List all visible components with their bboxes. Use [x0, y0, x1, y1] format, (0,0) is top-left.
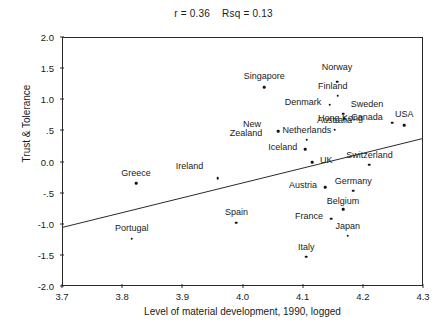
data-point-marker — [135, 182, 138, 185]
data-point-label: France — [295, 211, 323, 221]
data-point-label: Canada — [351, 112, 383, 122]
data-point-marker — [403, 124, 406, 127]
x-tick-label: 3.7 — [42, 291, 82, 302]
x-tick-mark — [423, 284, 424, 288]
y-tick-label: 2.0 — [14, 32, 54, 43]
x-tick-label: 4.2 — [343, 291, 383, 302]
data-point-label: Austria — [289, 180, 317, 190]
data-point-label: Italy — [298, 242, 315, 252]
scatter-plot-figure: r = 0.36 Rsq = 0.13 2.01.51.0.50.0-.5-1.… — [0, 0, 447, 331]
data-point-label: Denmark — [285, 97, 322, 107]
data-point-marker — [217, 177, 220, 180]
data-point-label: Netherlands — [283, 125, 332, 135]
data-point-label: Japan — [336, 221, 361, 231]
data-point-marker — [277, 130, 280, 133]
data-point-marker — [263, 86, 266, 89]
data-point-label: Finland — [318, 81, 348, 91]
x-tick-mark — [122, 284, 123, 288]
x-tick-label: 4.1 — [283, 291, 323, 302]
x-tick-label: 3.9 — [162, 291, 202, 302]
data-point-label: Zealand — [230, 128, 263, 138]
data-point-label: Spain — [225, 207, 248, 217]
y-tick-label: -2.0 — [14, 281, 54, 292]
x-axis-label: Level of material development, 1990, log… — [62, 306, 423, 317]
x-tick-mark — [182, 284, 183, 288]
data-point-label: Singapore — [244, 71, 285, 81]
x-tick-mark — [362, 284, 363, 288]
data-point-marker — [235, 221, 238, 224]
x-tick-label: 4.0 — [223, 291, 263, 302]
data-point-marker — [336, 94, 339, 97]
y-tick-label: -1.5 — [14, 249, 54, 260]
x-tick-mark — [242, 284, 243, 288]
data-point-marker — [330, 217, 333, 220]
plot-canvas — [62, 37, 423, 286]
y-tick-mark — [60, 99, 64, 100]
data-point-marker — [306, 138, 309, 141]
data-point-label: Germany — [335, 176, 372, 186]
y-tick-mark — [60, 161, 64, 162]
data-point-marker — [391, 122, 394, 125]
data-point-marker — [342, 208, 345, 211]
x-tick-label: 3.8 — [102, 291, 142, 302]
data-point-label: Greece — [121, 168, 151, 178]
data-point-marker — [346, 234, 349, 237]
y-tick-mark — [60, 223, 64, 224]
y-axis-label: Trust & Tolerance — [21, 54, 32, 194]
y-tick-mark — [60, 130, 64, 131]
y-tick-mark — [60, 192, 64, 193]
x-tick-mark — [302, 284, 303, 288]
data-point-label: Sweden — [351, 99, 384, 109]
data-point-marker — [311, 161, 314, 164]
data-point-marker — [333, 128, 336, 131]
x-tick-label: 4.3 — [403, 291, 443, 302]
data-point-marker — [324, 186, 327, 189]
y-tick-mark — [60, 68, 64, 69]
data-point-label: USA — [395, 109, 414, 119]
data-point-label: Switzerland — [346, 150, 393, 160]
x-tick-mark — [62, 284, 63, 288]
data-point-marker — [130, 237, 133, 240]
data-point-label: Portugal — [115, 223, 149, 233]
data-point-label: Australia — [317, 115, 352, 125]
y-tick-mark — [60, 37, 64, 38]
data-point-marker — [368, 163, 371, 166]
data-point-label: Iceland — [268, 142, 297, 152]
data-point-label: UK — [320, 155, 333, 165]
y-tick-label: -1.0 — [14, 218, 54, 229]
chart-title: r = 0.36 Rsq = 0.13 — [0, 8, 447, 19]
data-point-marker — [328, 104, 331, 107]
y-tick-mark — [60, 254, 64, 255]
data-point-label: Belgium — [327, 196, 360, 206]
data-point-label: Norway — [322, 62, 353, 72]
data-point-marker — [304, 148, 307, 151]
data-point-label: Ireland — [176, 161, 204, 171]
data-point-marker — [352, 189, 355, 192]
data-point-marker — [305, 255, 308, 258]
